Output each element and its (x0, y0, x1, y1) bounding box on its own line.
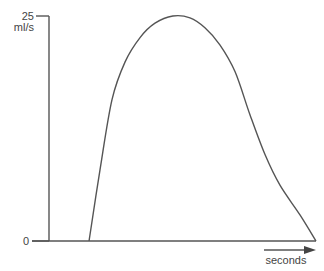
x-axis-label: seconds (266, 254, 307, 266)
flow-curve (89, 16, 316, 241)
y-tick-label-0: 0 (23, 235, 29, 247)
flow-chart: 25 ml/s 0 seconds (0, 0, 324, 271)
x-axis-arrow-head (304, 246, 316, 254)
y-axis-label: ml/s (14, 21, 35, 33)
